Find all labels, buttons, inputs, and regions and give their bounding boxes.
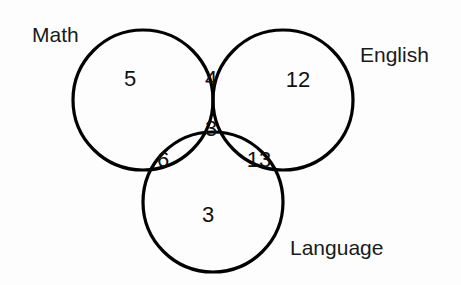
region-value-math-only: 5: [124, 66, 136, 91]
circle-english: [213, 30, 353, 170]
circle-math: [73, 30, 213, 170]
venn-diagram-container: Math English Language 5 4 12 3 6 13 3: [0, 0, 461, 285]
region-value-english-only: 12: [286, 67, 310, 92]
region-value-english-language: 13: [247, 147, 271, 172]
set-label-language: Language: [290, 236, 383, 259]
set-label-english: English: [360, 43, 429, 66]
region-value-math-english: 4: [205, 66, 217, 91]
region-value-language-only: 3: [202, 202, 214, 227]
venn-diagram-canvas: Math English Language 5 4 12 3 6 13 3: [0, 0, 461, 285]
region-value-math-english-language: 3: [205, 116, 217, 141]
region-value-math-language: 6: [157, 147, 169, 172]
set-label-math: Math: [32, 23, 79, 46]
